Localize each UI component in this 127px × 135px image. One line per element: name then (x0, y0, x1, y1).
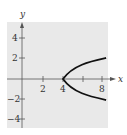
x-tick-label-2: 2 (40, 84, 46, 94)
y-tick-label-4: 4 (12, 33, 18, 43)
y-tick-label-m2: −2 (7, 94, 20, 104)
x-axis-arrow-icon (110, 77, 116, 81)
x-axis-label: x (118, 74, 123, 84)
x-tick-label-4: 4 (60, 84, 66, 94)
y-tick-label-m4: −4 (7, 114, 21, 124)
y-tick-label-2: 2 (12, 53, 18, 63)
parabola-chart: x y 2 4 8 4 2 −2 −4 (0, 0, 127, 135)
y-axis-label: y (19, 9, 26, 19)
x-tick-label-8: 8 (99, 84, 105, 94)
